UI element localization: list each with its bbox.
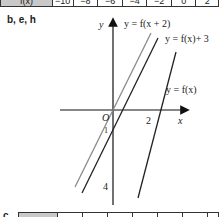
function-graph: y y = f(x + 2) y = f(x)+ 3 y = f(x) O 2 …: [0, 0, 219, 217]
label-f-x-plus-2: y = f(x + 2): [124, 18, 170, 30]
table-header: [19, 213, 58, 218]
table-cell: [183, 213, 208, 218]
bottom-table: [18, 212, 219, 217]
table-cell: [158, 213, 183, 218]
line-f-x: [138, 52, 176, 198]
table-cell: [58, 213, 83, 218]
label-f-x: y = f(x): [166, 84, 197, 96]
y-axis-label: y: [98, 19, 104, 30]
table-cell: [108, 213, 133, 218]
table-cell: [208, 213, 219, 218]
x-axis-label: x: [177, 115, 183, 126]
small-label: 1: [104, 126, 108, 135]
table-cell: [133, 213, 158, 218]
y-intercept-label: 4: [103, 181, 108, 192]
part-label-c: c: [3, 210, 9, 217]
x-intercept-label: 2: [146, 115, 151, 126]
table-cell: [83, 213, 108, 218]
origin-label: O: [102, 112, 109, 123]
label-f-x-plus-3: y = f(x)+ 3: [165, 33, 209, 45]
